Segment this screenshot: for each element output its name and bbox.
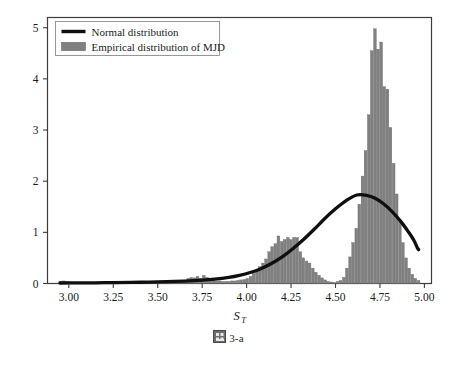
- missing-glyph-box-icon: [213, 330, 226, 343]
- x-axis-tick-label: 4.00: [237, 291, 257, 303]
- x-axis-label: ST: [233, 309, 247, 326]
- x-axis-tick-label: 5.00: [414, 291, 434, 303]
- histogram-bar: [339, 280, 342, 283]
- x-axis-tick-label: 3.75: [192, 291, 212, 303]
- histogram-bar: [342, 277, 345, 283]
- histogram-bar: [324, 280, 327, 284]
- histogram-bar: [215, 281, 218, 284]
- histogram-bar: [333, 282, 336, 283]
- histogram-bar: [243, 279, 246, 283]
- histogram-bar: [302, 258, 305, 284]
- histogram-bar: [349, 257, 352, 284]
- histogram-bar: [227, 281, 230, 283]
- histogram-bar: [230, 281, 233, 284]
- histogram-bar: [237, 280, 240, 283]
- histogram-bar: [411, 274, 414, 283]
- histogram-bar: [364, 151, 367, 284]
- figure-caption-text: 3-a: [229, 332, 244, 344]
- histogram-bar: [280, 242, 283, 284]
- histogram-bar: [352, 243, 355, 284]
- x-axis: 3.003.253.503.754.004.254.504.755.00: [59, 284, 435, 303]
- legend-label: Normal distribution: [92, 26, 180, 38]
- figure-caption: 3-a: [0, 330, 457, 344]
- histogram-bar: [386, 89, 389, 283]
- histogram-bar: [293, 237, 296, 283]
- histogram-bar: [336, 281, 339, 283]
- histogram-bar: [218, 281, 221, 284]
- histogram-bar: [367, 115, 370, 284]
- histogram-bar: [330, 282, 333, 284]
- histogram-bar: [286, 237, 289, 283]
- x-axis-tick-label: 3.50: [148, 291, 168, 303]
- histogram-bar: [283, 240, 286, 284]
- histogram-bar: [380, 42, 383, 283]
- histogram-bar: [355, 228, 358, 283]
- histogram-bar: [321, 278, 324, 284]
- histogram-bar: [318, 275, 321, 283]
- histogram-bar: [370, 51, 373, 284]
- histogram-bar: [265, 259, 268, 284]
- histogram-bar: [395, 194, 398, 284]
- histogram-bar: [314, 272, 317, 283]
- y-axis-tick-label: 2: [33, 175, 39, 187]
- histogram-bar: [358, 204, 361, 283]
- histogram-bar: [402, 243, 405, 284]
- legend: Normal distributionEmpirical distributio…: [56, 22, 226, 56]
- histogram-bar: [414, 278, 417, 283]
- histogram-bar: [249, 276, 252, 283]
- distribution-chart: 3.003.253.503.754.004.254.504.755.000123…: [0, 0, 457, 368]
- histogram-bar: [327, 281, 330, 283]
- histogram-bar: [290, 240, 293, 284]
- histogram-bar: [268, 252, 271, 284]
- x-axis-tick-label: 3.25: [103, 291, 123, 303]
- histogram-bar: [221, 281, 224, 283]
- x-axis-label-subscript: T: [241, 315, 247, 325]
- legend-marker-patch: [62, 42, 86, 50]
- histogram-bar: [346, 268, 349, 283]
- x-axis-tick-label: 4.75: [370, 291, 390, 303]
- y-axis: 012345: [33, 22, 48, 290]
- y-axis-tick-label: 3: [33, 124, 39, 136]
- y-axis-tick-label: 0: [33, 278, 39, 290]
- histogram-bar: [374, 29, 377, 284]
- histogram-bar: [240, 280, 243, 284]
- histogram-bar: [224, 281, 227, 283]
- x-axis-tick-label: 3.00: [59, 291, 79, 303]
- y-axis-tick-label: 1: [33, 226, 39, 238]
- histogram-bar: [408, 268, 411, 283]
- histogram-bar: [417, 280, 420, 283]
- histogram-bar: [311, 268, 314, 283]
- figure-container: 3.003.253.503.754.004.254.504.755.000123…: [0, 0, 457, 368]
- x-axis-label-base: S: [233, 309, 240, 323]
- x-axis-tick-label: 4.25: [281, 291, 301, 303]
- histogram-bar: [377, 49, 380, 283]
- histogram-bar: [389, 127, 392, 283]
- histogram-bar: [392, 163, 395, 283]
- x-axis-tick-label: 4.50: [325, 291, 345, 303]
- histogram-bar: [299, 252, 302, 284]
- legend-label: Empirical distribution of MJD: [92, 41, 226, 53]
- histogram-bar: [252, 273, 255, 283]
- histogram-bar: [308, 263, 311, 283]
- histogram-bar: [398, 222, 401, 283]
- histogram-bar: [383, 87, 386, 284]
- histogram-bar: [361, 176, 364, 283]
- y-axis-tick-label: 5: [33, 22, 39, 34]
- histogram-bar: [246, 278, 249, 283]
- histogram-bar: [234, 281, 237, 284]
- histogram-bar: [305, 261, 308, 284]
- histogram-bar: [405, 258, 408, 284]
- y-axis-tick-label: 4: [33, 73, 39, 85]
